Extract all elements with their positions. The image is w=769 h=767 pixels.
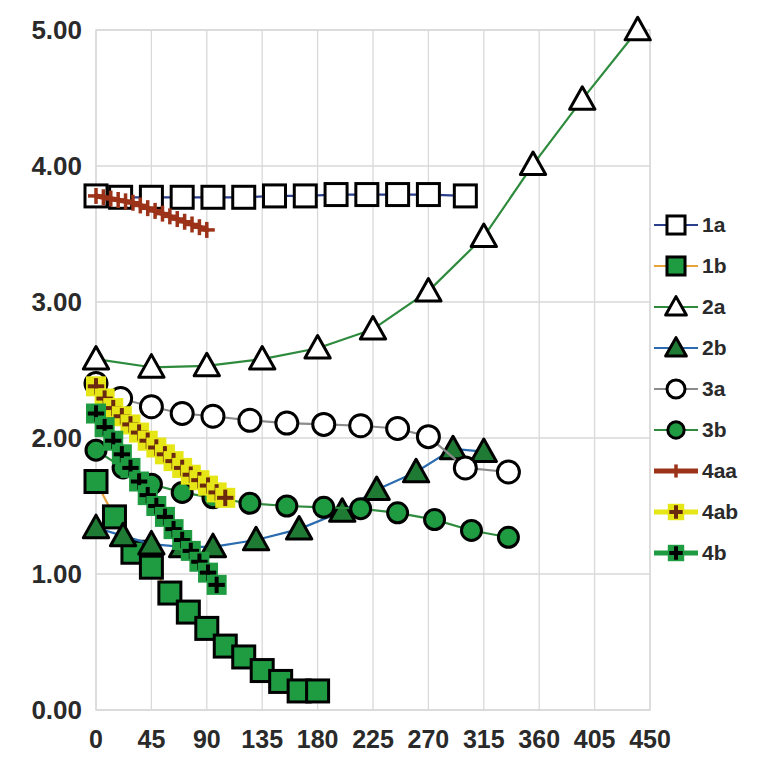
legend-item-1b[interactable]: 1b <box>654 254 727 277</box>
chart-container: 0.001.002.003.004.005.00 045901351802252… <box>0 0 769 767</box>
x-tick-label: 0 <box>89 725 103 753</box>
x-tick-label: 45 <box>137 725 165 753</box>
data-point-2a <box>625 17 650 40</box>
data-point-3a <box>313 413 335 435</box>
y-tick-label: 3.00 <box>31 287 82 317</box>
data-point-2b <box>403 459 428 482</box>
x-tick-label: 225 <box>352 725 394 753</box>
data-point-3a <box>171 403 193 425</box>
legend-item-4b[interactable]: 4b <box>654 541 727 564</box>
data-point-3a <box>276 412 298 434</box>
data-point-3b <box>351 499 371 519</box>
x-tick-label: 180 <box>297 725 339 753</box>
data-point-3b <box>498 527 518 547</box>
legend-item-1a[interactable]: 1a <box>654 213 726 236</box>
y-axis-tick-labels: 0.001.002.003.004.005.00 <box>31 15 82 725</box>
y-tick-label: 0.00 <box>31 695 82 725</box>
line-chart: 0.001.002.003.004.005.00 045901351802252… <box>0 0 769 767</box>
legend-label-1a: 1a <box>702 213 726 236</box>
legend-marker-1a <box>667 216 685 234</box>
legend-label-3b: 3b <box>702 418 727 441</box>
data-point-2b <box>440 436 465 459</box>
legend-label-2a: 2a <box>702 295 726 318</box>
legend-marker-2a <box>666 297 687 315</box>
data-point-1a <box>202 186 224 208</box>
legend-label-3a: 3a <box>702 377 726 400</box>
data-point-1a <box>454 185 476 207</box>
data-point-4b <box>207 575 227 595</box>
data-point-2a <box>305 336 330 359</box>
data-point-4aa <box>169 211 185 227</box>
legend-item-2b[interactable]: 2b <box>654 336 727 359</box>
x-tick-label: 90 <box>193 725 221 753</box>
data-point-1a <box>171 186 193 208</box>
legend-marker-4aa <box>669 464 682 477</box>
x-axis-tick-labels: 04590135180225270315360405450 <box>89 725 671 753</box>
legend-item-3a[interactable]: 3a <box>654 377 726 400</box>
data-point-2a <box>520 152 545 175</box>
legend-item-3b[interactable]: 3b <box>654 418 727 441</box>
data-point-3b <box>314 497 334 517</box>
y-tick-label: 4.00 <box>31 151 82 181</box>
data-point-3a <box>497 461 519 483</box>
data-point-1a <box>264 185 286 207</box>
legend-item-2a[interactable]: 2a <box>654 295 726 318</box>
legend-item-4aa[interactable]: 4aa <box>654 459 737 482</box>
y-tick-label: 1.00 <box>31 559 82 589</box>
legend-marker-3a <box>667 380 685 398</box>
legend-label-4aa: 4aa <box>702 459 737 482</box>
data-point-4aa <box>184 216 200 232</box>
legend-marker-4ab <box>668 504 684 520</box>
legend-marker-4b <box>668 545 684 561</box>
y-tick-label: 2.00 <box>31 423 82 453</box>
data-point-3a <box>350 415 372 437</box>
data-point-2b <box>286 516 311 539</box>
data-point-4aa <box>162 208 178 224</box>
data-point-4aa <box>191 219 207 235</box>
data-point-2a <box>570 87 595 110</box>
data-point-2a <box>83 346 108 369</box>
legend-marker-3b <box>668 422 684 438</box>
data-point-1a <box>417 184 439 206</box>
data-point-3a <box>140 396 162 418</box>
legend-label-4ab: 4ab <box>702 500 738 523</box>
data-point-4aa <box>177 214 193 230</box>
data-point-1b <box>307 680 329 702</box>
data-point-3b <box>240 493 260 513</box>
series-3a <box>85 373 519 483</box>
data-point-3a <box>454 457 476 479</box>
x-tick-label: 135 <box>241 725 283 753</box>
legend-label-4b: 4b <box>702 541 727 564</box>
data-point-4ab <box>215 488 235 508</box>
data-point-2b <box>364 477 389 500</box>
data-point-3b <box>172 482 192 502</box>
chart-legend: 1a1b2a2b3a3b4aa4ab4b <box>654 213 738 564</box>
x-tick-label: 270 <box>408 725 450 753</box>
data-point-3b <box>388 503 408 523</box>
data-point-3b <box>461 520 481 540</box>
data-point-1a <box>294 185 316 207</box>
data-point-2a <box>360 317 385 340</box>
data-point-3a <box>239 409 261 431</box>
legend-item-4ab[interactable]: 4ab <box>654 500 738 523</box>
data-point-1a <box>325 184 347 206</box>
data-point-1a <box>387 184 409 206</box>
x-tick-label: 450 <box>629 725 671 753</box>
data-point-1b <box>85 471 107 493</box>
x-tick-label: 405 <box>574 725 616 753</box>
data-point-3a <box>387 417 409 439</box>
x-tick-label: 360 <box>518 725 560 753</box>
data-point-4aa <box>199 222 215 238</box>
legend-label-1b: 1b <box>702 254 727 277</box>
data-point-3b <box>86 440 106 460</box>
y-tick-label: 5.00 <box>31 15 82 45</box>
legend-label-2b: 2b <box>702 336 727 359</box>
legend-marker-1b <box>667 257 685 275</box>
data-point-3b <box>277 496 297 516</box>
data-point-3b <box>425 510 445 530</box>
data-point-2a <box>471 224 496 247</box>
data-point-1b <box>140 556 162 578</box>
data-point-3a <box>417 426 439 448</box>
legend-marker-2b <box>666 338 687 356</box>
x-tick-label: 315 <box>463 725 505 753</box>
